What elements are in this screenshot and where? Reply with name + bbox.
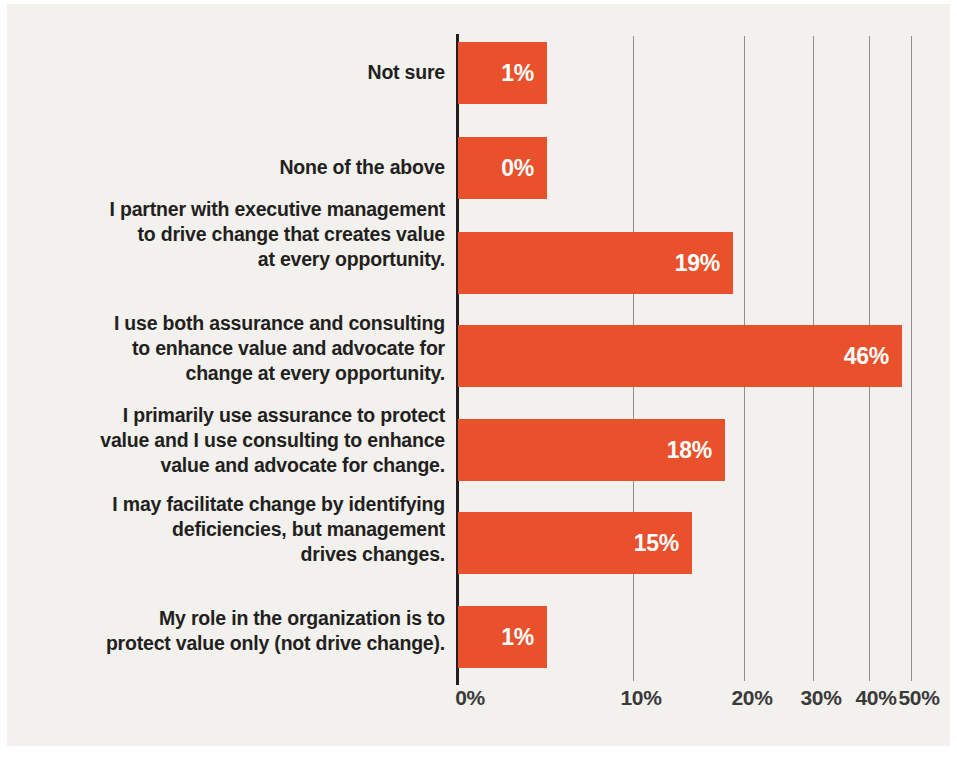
category-label-line: I primarily use assurance to protect (8, 403, 445, 428)
category-label: None of the above (8, 155, 445, 180)
bar-value-label: 19% (675, 250, 733, 277)
bar: 1% (458, 42, 547, 104)
bar: 0% (458, 137, 547, 199)
x-tick-label: 40% (856, 686, 897, 710)
category-label-line: Not sure (8, 60, 445, 85)
category-label-line: I may facilitate change by identifying (8, 492, 445, 517)
x-tick-label: 0% (455, 686, 485, 710)
bar-chart-figure: Not sure1%None of the above0%I partner w… (0, 0, 957, 774)
category-label-line: deficiencies, but management (8, 517, 445, 542)
category-label: I use both assurance and consultingto en… (8, 311, 445, 386)
bar-value-label: 15% (634, 530, 692, 557)
bar-value-label: 0% (501, 155, 547, 182)
category-label-line: change at every opportunity. (8, 361, 445, 386)
category-label-line: My role in the organization is to (8, 606, 445, 631)
category-label-line: to enhance value and advocate for (8, 336, 445, 361)
category-label-line: None of the above (8, 155, 445, 180)
x-tick-label: 10% (621, 686, 662, 710)
category-label-line: to drive change that creates value (8, 222, 445, 247)
x-tick-label: 30% (801, 686, 842, 710)
x-tick-label: 50% (899, 686, 940, 710)
bar: 18% (458, 419, 725, 481)
category-label: My role in the organization is toprotect… (8, 606, 445, 656)
bar: 1% (458, 606, 547, 668)
category-label-line: drives changes. (8, 542, 445, 567)
category-label-line: I use both assurance and consulting (8, 311, 445, 336)
category-label-line: value and I use consulting to enhance (8, 428, 445, 453)
gridline-50pct (911, 36, 912, 681)
bar-value-label: 1% (501, 60, 547, 87)
category-label: Not sure (8, 60, 445, 85)
x-tick-label: 20% (732, 686, 773, 710)
bar-value-label: 46% (844, 343, 902, 370)
category-label: I primarily use assurance to protectvalu… (8, 403, 445, 478)
bar-value-label: 18% (667, 437, 725, 464)
category-label-line: I partner with executive management (8, 197, 445, 222)
bar: 19% (458, 232, 733, 294)
bar: 15% (458, 512, 692, 574)
plot-area: Not sure1%None of the above0%I partner w… (0, 0, 957, 774)
category-label: I may facilitate change by identifyingde… (8, 492, 445, 567)
category-label-line: protect value only (not drive change). (8, 631, 445, 656)
bar: 46% (458, 325, 902, 387)
category-label: I partner with executive managementto dr… (8, 197, 445, 272)
category-label-line: at every opportunity. (8, 247, 445, 272)
category-label-line: value and advocate for change. (8, 453, 445, 478)
bar-value-label: 1% (501, 624, 547, 651)
